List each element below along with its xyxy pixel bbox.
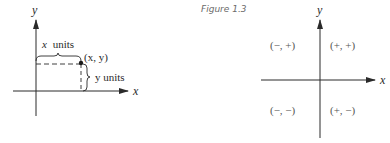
y-units-label: y units [95, 71, 125, 83]
left-coordinate-figure: x y x units (x, y) y units [13, 3, 139, 116]
x-units-brace [36, 53, 81, 61]
quadrant-3-label: (−, −) [270, 104, 296, 117]
point-marker [79, 61, 83, 65]
right-x-axis-label: x [379, 73, 386, 87]
quadrant-2-label: (−, +) [270, 39, 296, 52]
left-y-axis-label: y [31, 3, 38, 17]
quadrant-1-label: (+, +) [330, 39, 356, 52]
left-x-axis-label: x [132, 84, 139, 98]
quadrant-4-label: (+, −) [330, 104, 356, 117]
right-y-axis-label: y [316, 3, 323, 17]
figure-canvas: x y x units (x, y) y units Figure 1.3 x … [0, 0, 390, 143]
point-label: (x, y) [84, 51, 108, 64]
figure-caption: Figure 1.3 [201, 4, 247, 14]
y-units-brace [83, 64, 90, 91]
right-quadrant-figure: x y (−, +) (+, +) (−, −) (+, −) [261, 3, 386, 138]
x-units-label: x units [41, 38, 74, 50]
